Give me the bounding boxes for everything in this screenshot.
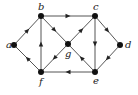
node-label-g: g xyxy=(65,48,71,59)
node-label-c: c xyxy=(93,1,99,12)
node-label-a: a xyxy=(6,39,12,50)
node-f xyxy=(38,69,44,75)
node-g xyxy=(65,41,71,47)
arrowhead-icon xyxy=(66,14,71,18)
arrowhead-icon xyxy=(93,42,97,47)
arrowhead-icon xyxy=(66,70,71,74)
node-label-f: f xyxy=(38,76,45,87)
node-b xyxy=(38,13,44,19)
node-label-e: e xyxy=(93,75,99,86)
directed-graph-diagram: abcdefg xyxy=(0,0,138,95)
arrowhead-icon xyxy=(39,42,43,47)
node-label-d: d xyxy=(125,39,131,50)
node-d xyxy=(117,42,123,48)
node-label-b: b xyxy=(38,1,44,12)
nodes xyxy=(11,13,123,75)
node-c xyxy=(92,13,98,19)
